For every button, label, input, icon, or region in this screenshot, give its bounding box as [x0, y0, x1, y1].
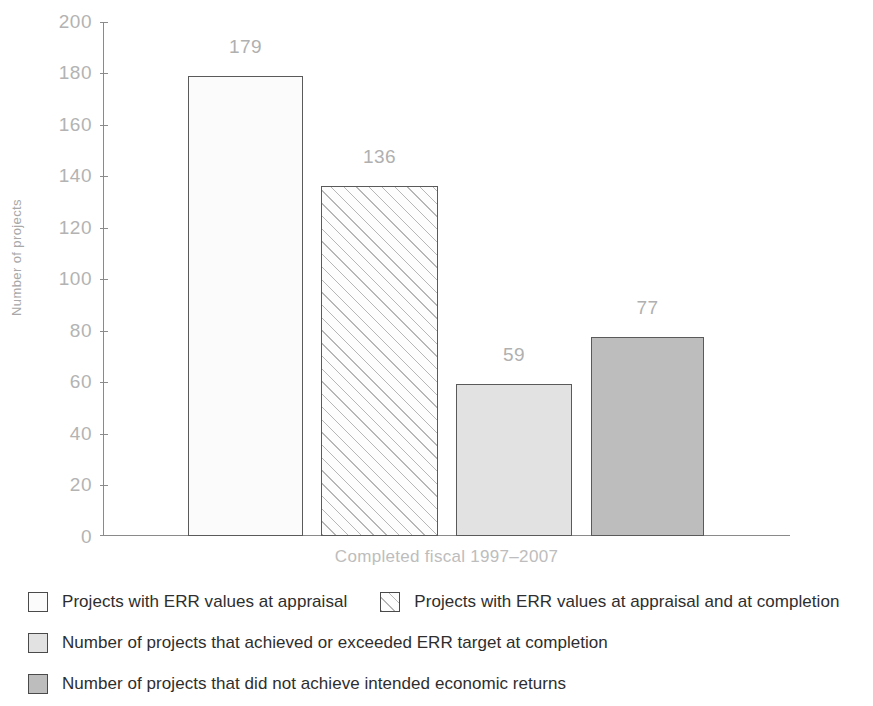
y-tick-mark-20: [100, 485, 108, 486]
y-tick-mark-200: [100, 22, 108, 23]
y-tick-label-80: 80: [34, 320, 92, 342]
legend-row-1: Projects with ERR values at appraisal Pr…: [28, 582, 839, 622]
y-tick-label-40: 40: [34, 423, 92, 445]
bar-2[interactable]: [321, 186, 438, 536]
legend-swatch-gray-light-icon: [28, 633, 48, 653]
bar-3[interactable]: [456, 384, 572, 536]
y-tick-label-60: 60: [34, 371, 92, 393]
plot-area: Number of projects 200 180 160 140 120 1…: [0, 0, 873, 560]
chart-legend: Projects with ERR values at appraisal Pr…: [0, 582, 873, 706]
y-tick-label-0: 0: [34, 526, 92, 548]
legend-row-3: Number of projects that did not achieve …: [28, 664, 566, 704]
y-tick-label-200: 200: [34, 11, 92, 33]
legend-label-1: Projects with ERR values at appraisal: [62, 592, 347, 612]
bar-value-4: 77: [591, 297, 704, 319]
bar-value-2: 136: [321, 146, 438, 168]
y-tick-label-120: 120: [34, 217, 92, 239]
y-axis-title: Number of projects: [9, 158, 24, 358]
y-tick-label-160: 160: [34, 114, 92, 136]
y-tick-label-100: 100: [34, 268, 92, 290]
y-tick-label-140: 140: [34, 165, 92, 187]
legend-swatch-hatch-icon: [380, 592, 400, 612]
y-tick-mark-80: [100, 331, 108, 332]
y-tick-mark-160: [100, 125, 108, 126]
legend-label-3: Number of projects that achieved or exce…: [62, 633, 608, 653]
y-tick-label-20: 20: [34, 474, 92, 496]
bar-value-1: 179: [188, 36, 303, 58]
y-tick-mark-120: [100, 228, 108, 229]
y-tick-mark-100: [100, 279, 108, 280]
x-axis-title: Completed fiscal 1997–2007: [103, 547, 790, 567]
y-tick-mark-140: [100, 176, 108, 177]
legend-label-2: Projects with ERR values at appraisal an…: [414, 592, 839, 612]
bar-value-3: 59: [456, 344, 572, 366]
legend-swatch-gray-mid-icon: [28, 674, 48, 694]
y-tick-mark-40: [100, 434, 108, 435]
legend-entry-1[interactable]: Projects with ERR values at appraisal: [28, 592, 347, 612]
legend-label-4: Number of projects that did not achieve …: [62, 674, 566, 694]
legend-entry-4[interactable]: Number of projects that did not achieve …: [28, 674, 566, 694]
legend-entry-2[interactable]: Projects with ERR values at appraisal an…: [380, 592, 839, 612]
legend-row-2: Number of projects that achieved or exce…: [28, 623, 608, 663]
bar-1[interactable]: [188, 76, 303, 536]
y-tick-mark-60: [100, 382, 108, 383]
legend-entry-3[interactable]: Number of projects that achieved or exce…: [28, 633, 608, 653]
y-tick-label-180: 180: [34, 62, 92, 84]
bar-chart-figure: Number of projects 200 180 160 140 120 1…: [0, 0, 873, 706]
bar-4[interactable]: [591, 337, 704, 536]
y-tick-mark-180: [100, 73, 108, 74]
legend-swatch-plain-icon: [28, 592, 48, 612]
y-axis-line: [103, 22, 104, 535]
